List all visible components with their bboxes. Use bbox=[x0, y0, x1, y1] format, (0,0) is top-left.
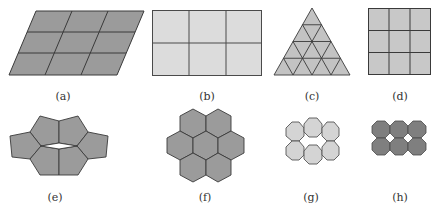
label-f: (f) bbox=[199, 191, 212, 204]
label-h: (h) bbox=[392, 191, 408, 204]
figure-a-parallelogram-grid bbox=[9, 11, 144, 75]
label-c: (c) bbox=[305, 90, 320, 103]
figure-f-hexagon-cluster bbox=[167, 109, 244, 182]
figure-c-triangle-grid bbox=[274, 8, 350, 75]
figure-d-square-grid bbox=[369, 9, 431, 75]
label-d: (d) bbox=[392, 90, 408, 103]
figure-b-rectangle-grid bbox=[153, 11, 262, 76]
tiling-diagram: (a) (b) (c) (d) (e) (f) (g) (h) bbox=[0, 0, 437, 212]
label-e: (e) bbox=[47, 191, 62, 204]
figure-e-pentagon-ring bbox=[10, 116, 108, 175]
label-b: (b) bbox=[199, 90, 215, 103]
label-a: (a) bbox=[55, 90, 70, 103]
figure-g-octagon-ring bbox=[286, 118, 339, 164]
tilings-canvas bbox=[0, 0, 437, 212]
label-g: (g) bbox=[303, 191, 319, 204]
figure-h-octagon-grid bbox=[372, 121, 426, 155]
